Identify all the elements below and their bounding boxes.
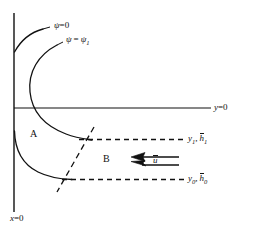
y-axis-value: 0	[223, 102, 228, 112]
horizontal-axis-label: y=0	[214, 103, 228, 112]
figure-canvas: ψ=0 ψ=ψ1 y=0 x=0 y1,h1 y0,h0 u A B	[0, 0, 254, 230]
x-axis-value: 0	[19, 213, 24, 223]
psi-zero-label: ψ=0	[54, 21, 69, 30]
psi-one-symbol: ψ	[66, 34, 72, 44]
h0-subscript: 0	[204, 178, 207, 185]
upper-level-separator: ,	[195, 133, 197, 143]
lower-level-separator: ,	[195, 173, 197, 183]
psi-zero-leader	[43, 27, 50, 29]
region-a-label: A	[30, 128, 37, 139]
lower-level-label: y0,h0	[188, 174, 207, 185]
psi-zero-value: 0	[65, 20, 70, 30]
h0-symbol: h	[200, 174, 205, 183]
psi-one-subscript: 1	[86, 39, 89, 46]
u-bar-symbol: u	[153, 156, 158, 165]
region-b-label: B	[103, 153, 110, 164]
upper-level-label: y1,h1	[188, 134, 207, 145]
lower-streamline	[15, 131, 73, 180]
psi-one-equals: =	[74, 34, 79, 44]
vertical-axis-label: x=0	[10, 214, 24, 223]
diagram-svg	[0, 0, 254, 230]
velocity-label: u	[153, 156, 158, 165]
psi-zero-streamline	[15, 29, 44, 52]
h1-subscript: 1	[204, 138, 207, 145]
psi-one-label: ψ=ψ1	[66, 35, 90, 46]
h1-symbol: h	[200, 134, 205, 143]
psi-one-leader	[57, 42, 63, 45]
psi-one-streamline	[30, 45, 92, 140]
